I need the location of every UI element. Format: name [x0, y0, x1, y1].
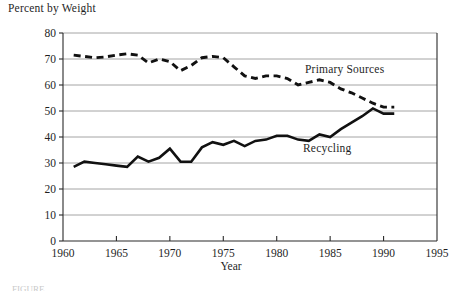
series-line-primary-sources: [74, 54, 395, 107]
x-tick-label: 1980: [265, 247, 288, 259]
y-tick-label: 20: [45, 183, 57, 195]
x-tick-label: 1970: [158, 247, 181, 259]
y-tick-label: 80: [45, 27, 57, 39]
series-line-recycling: [74, 108, 395, 166]
series-label-primary-sources: Primary Sources: [305, 63, 385, 76]
figure-caption: FIGURE: [12, 284, 452, 291]
y-tick-label: 70: [45, 53, 57, 65]
figure-container: Percent by Weight 01020304050607080 1960…: [0, 0, 462, 291]
y-tick-label: 0: [50, 235, 56, 247]
x-tick-label: 1965: [105, 247, 128, 259]
x-tick-label: 1960: [52, 247, 75, 259]
x-axis-tick-labels: 19601965197019751980198519901995: [52, 247, 449, 259]
y-axis-tick-labels: 01020304050607080: [45, 27, 57, 247]
x-tick-label: 1995: [426, 247, 449, 259]
x-tick-label: 1975: [212, 247, 235, 259]
y-tick-label: 40: [45, 131, 57, 143]
y-tick-label: 60: [45, 79, 57, 91]
y-tick-label: 50: [45, 105, 57, 117]
x-axis-title: Year: [220, 260, 241, 272]
x-tick-label: 1990: [372, 247, 395, 259]
line-chart: 01020304050607080 1960196519701975198019…: [0, 0, 462, 291]
y-tick-label: 30: [45, 157, 57, 169]
y-tick-label: 10: [45, 209, 57, 221]
gridlines-group: [63, 33, 437, 215]
x-tick-label: 1985: [319, 247, 342, 259]
series-label-recycling: Recycling: [303, 142, 351, 155]
